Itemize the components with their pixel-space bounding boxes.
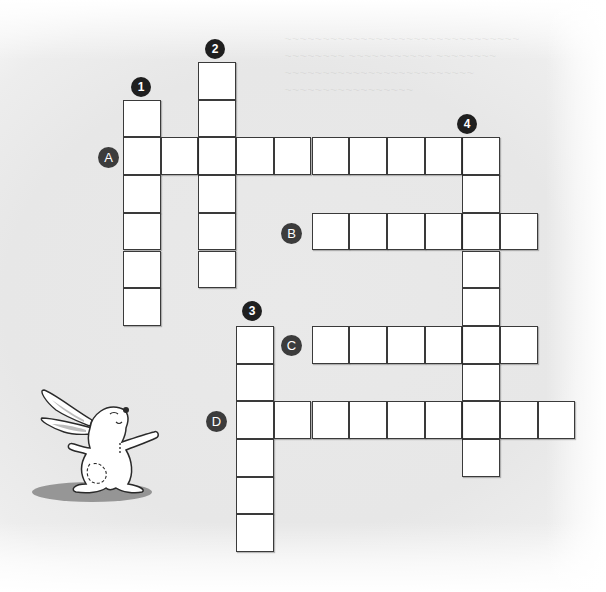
crossword-cell[interactable] xyxy=(462,439,500,477)
crossword-cell[interactable] xyxy=(312,326,350,364)
crossword-cell[interactable] xyxy=(312,401,350,439)
crossword-cell[interactable] xyxy=(462,401,500,439)
crossword-cell[interactable] xyxy=(198,213,236,251)
crossword-cell[interactable] xyxy=(236,364,274,402)
clue-letter-badge-B: B xyxy=(281,223,302,244)
crossword-cell[interactable] xyxy=(236,137,274,175)
crossword-cell[interactable] xyxy=(500,326,538,364)
crossword-cell[interactable] xyxy=(161,137,199,175)
crossword-cell[interactable] xyxy=(387,137,425,175)
crossword-cell[interactable] xyxy=(462,288,500,326)
crossword-cell[interactable] xyxy=(123,213,161,251)
crossword-cell[interactable] xyxy=(123,137,161,175)
clue-number-badge-2: 2 xyxy=(205,39,225,59)
crossword-cell[interactable] xyxy=(236,401,274,439)
crossword-cell[interactable] xyxy=(123,175,161,213)
crossword-cell[interactable] xyxy=(349,137,387,175)
clue-letter-badge-C: C xyxy=(281,335,302,356)
crossword-cell[interactable] xyxy=(462,326,500,364)
crossword-cell[interactable] xyxy=(425,137,463,175)
crossword-cell[interactable] xyxy=(123,100,161,138)
crossword-cell[interactable] xyxy=(312,137,350,175)
crossword-cell[interactable] xyxy=(462,364,500,402)
crossword-cell[interactable] xyxy=(500,213,538,251)
crossword-cell[interactable] xyxy=(387,213,425,251)
crossword-cell[interactable] xyxy=(462,213,500,251)
crossword-cell[interactable] xyxy=(236,439,274,477)
crossword-cell[interactable] xyxy=(538,401,576,439)
clue-number-badge-1: 1 xyxy=(131,77,151,97)
crossword-cell[interactable] xyxy=(198,175,236,213)
page-edge-fade xyxy=(546,0,606,592)
rabbit-illustration xyxy=(30,388,160,508)
crossword-cell[interactable] xyxy=(462,175,500,213)
crossword-cell[interactable] xyxy=(425,326,463,364)
crossword-cell[interactable] xyxy=(387,326,425,364)
clue-letter-badge-D: D xyxy=(206,411,227,432)
crossword-cell[interactable] xyxy=(312,213,350,251)
crossword-cell[interactable] xyxy=(198,251,236,289)
crossword-cell[interactable] xyxy=(462,251,500,289)
crossword-cell[interactable] xyxy=(500,401,538,439)
crossword-cell[interactable] xyxy=(349,326,387,364)
crossword-cell[interactable] xyxy=(236,326,274,364)
crossword-cell[interactable] xyxy=(236,477,274,515)
crossword-cell[interactable] xyxy=(462,137,500,175)
crossword-cell[interactable] xyxy=(236,514,274,552)
crossword-cell[interactable] xyxy=(387,401,425,439)
crossword-cell[interactable] xyxy=(349,401,387,439)
crossword-cell[interactable] xyxy=(123,288,161,326)
crossword-cell[interactable] xyxy=(349,213,387,251)
crossword-cell[interactable] xyxy=(274,137,312,175)
clue-number-badge-3: 3 xyxy=(242,301,262,321)
crossword-cell[interactable] xyxy=(425,401,463,439)
crossword-cell[interactable] xyxy=(198,100,236,138)
crossword-cell[interactable] xyxy=(123,251,161,289)
crossword-cell[interactable] xyxy=(425,213,463,251)
crossword-cell[interactable] xyxy=(274,401,312,439)
clue-letter-badge-A: A xyxy=(98,147,119,168)
crossword-cell[interactable] xyxy=(198,62,236,100)
clue-number-badge-4: 4 xyxy=(457,114,477,134)
crossword-cell[interactable] xyxy=(198,137,236,175)
